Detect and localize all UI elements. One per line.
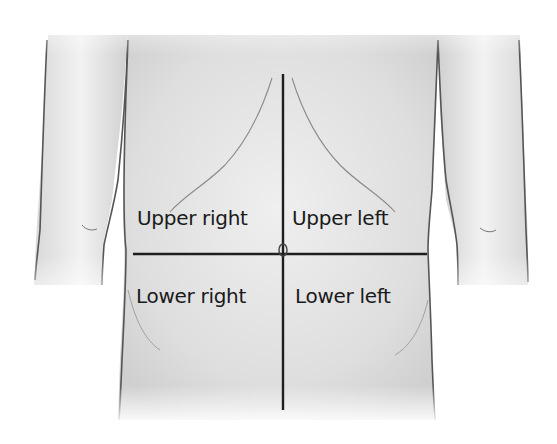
- quadrant-label-upper-right: Upper right: [137, 208, 248, 228]
- right-arm-shape: [34, 35, 128, 285]
- torso-illustration: [0, 0, 557, 444]
- quadrant-label-upper-left: Upper left: [292, 208, 388, 228]
- left-arm-shape: [438, 35, 528, 285]
- quadrant-label-lower-left: Lower left: [295, 286, 391, 306]
- quadrant-label-lower-right: Lower right: [136, 286, 246, 306]
